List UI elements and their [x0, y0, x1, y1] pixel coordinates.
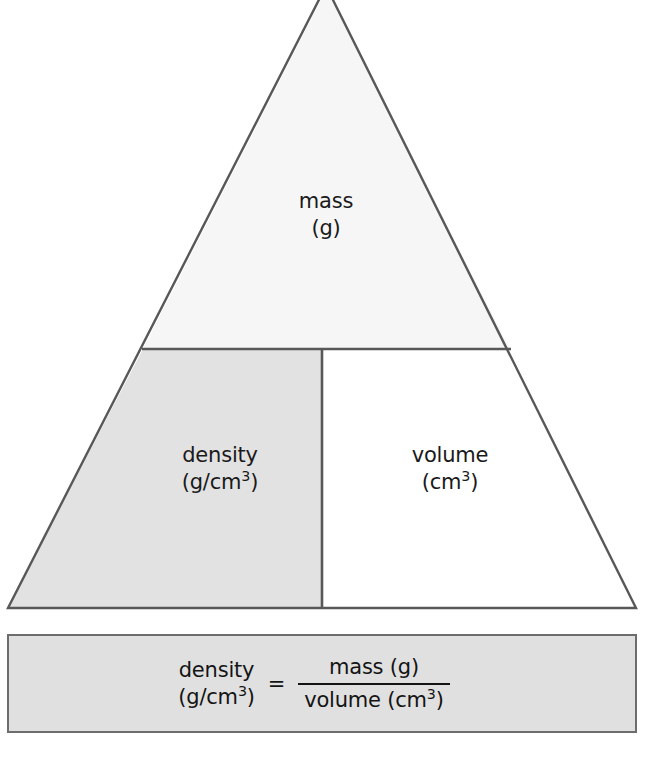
equation-lhs-unit: (g/cm3): [178, 684, 255, 711]
region-label-mass-name: mass: [226, 188, 426, 215]
density-unit-exponent: 3: [241, 468, 250, 484]
region-label-volume-name: volume: [350, 442, 550, 469]
density-equation: density (g/cm3) = mass (g) volume (cm3): [178, 654, 449, 714]
volume-unit-prefix: (cm: [422, 470, 462, 494]
equation-lhs-name: density: [178, 657, 255, 684]
triangle-svg: [0, 0, 650, 620]
density-unit-prefix: (g/cm: [182, 470, 242, 494]
equation-fraction: mass (g) volume (cm3): [298, 654, 450, 714]
region-label-density-name: density: [130, 442, 310, 469]
equals-sign: =: [266, 671, 287, 698]
region-mass-fill: [143, 0, 510, 349]
fraction-numerator: mass (g): [323, 654, 425, 683]
denominator-suffix: ): [436, 688, 444, 712]
volume-unit-suffix: ): [470, 470, 478, 494]
density-unit-suffix: ): [250, 470, 258, 494]
equation-lhs-unit-exponent: 3: [238, 683, 247, 699]
region-label-density-unit: (g/cm3): [130, 469, 310, 496]
region-label-volume: volume (cm3): [350, 442, 550, 497]
formula-triangle-diagram: mass (g) density (g/cm3) volume (cm3): [0, 0, 650, 620]
equation-left-side: density (g/cm3): [178, 657, 255, 711]
region-label-mass-unit: (g): [226, 215, 426, 242]
region-label-mass: mass (g): [226, 188, 426, 243]
density-triangle-figure: mass (g) density (g/cm3) volume (cm3) de…: [0, 0, 650, 760]
volume-unit-exponent: 3: [461, 468, 470, 484]
equation-lhs-unit-suffix: ): [247, 685, 255, 709]
fraction-denominator: volume (cm3): [298, 685, 450, 714]
region-label-density: density (g/cm3): [130, 442, 310, 497]
denominator-prefix: volume (cm: [304, 688, 427, 712]
formula-box: density (g/cm3) = mass (g) volume (cm3): [7, 634, 637, 733]
equation-lhs-unit-prefix: (g/cm: [178, 685, 238, 709]
region-label-volume-unit: (cm3): [350, 469, 550, 496]
